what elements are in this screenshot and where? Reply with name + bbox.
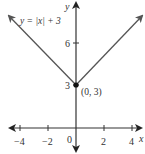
curve-right-branch <box>76 16 142 85</box>
y-tick-label-6: 6 <box>65 38 70 49</box>
y-axis-label: y <box>64 1 70 12</box>
x-tick-label-neg4: −4 <box>14 136 25 147</box>
curve-left-branch <box>9 16 76 85</box>
vertex-point <box>73 82 78 87</box>
x-tick-label-neg2: −2 <box>42 136 53 147</box>
equation-label: y = |x| + 3 <box>19 16 61 26</box>
x-axis-label: x <box>138 133 144 144</box>
y-tick-label-3: 3 <box>65 80 70 91</box>
x-tick-label-4: 4 <box>129 136 134 147</box>
x-tick-label-0: 0 <box>67 134 72 145</box>
x-tick-label-2: 2 <box>101 136 106 147</box>
graph-canvas: x y y = |x| + 3 −4 −2 0 2 4 3 6 (0, 3) <box>0 0 145 154</box>
vertex-label: (0, 3) <box>81 87 102 98</box>
